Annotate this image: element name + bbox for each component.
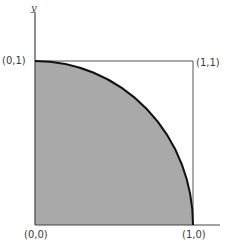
label-top-right: (1,1) bbox=[196, 57, 220, 68]
label-origin: (0,0) bbox=[24, 229, 48, 240]
label-top-left: (0,1) bbox=[2, 55, 26, 66]
quarter-circle-diagram: y (0,1) (1,1) (0,0) (1,0) bbox=[0, 0, 226, 251]
y-axis-label: y bbox=[30, 2, 37, 13]
diagram-svg: y (0,1) (1,1) (0,0) (1,0) bbox=[0, 0, 226, 251]
label-bottom-right: (1,0) bbox=[182, 229, 206, 240]
shaded-quarter-disk bbox=[35, 61, 193, 225]
